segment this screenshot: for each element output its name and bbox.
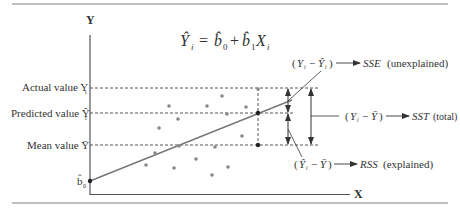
svg-text:i: i bbox=[191, 42, 194, 52]
mean-point bbox=[256, 143, 260, 147]
actual-value-label: Actual value Y bbox=[22, 81, 88, 93]
svg-text:SST: SST bbox=[412, 110, 430, 122]
svg-text:i: i bbox=[357, 117, 359, 123]
svg-text:(: ( bbox=[345, 110, 349, 123]
y-axis-label: Y bbox=[86, 13, 95, 27]
sse-leader bbox=[288, 71, 321, 101]
intercept-point bbox=[88, 179, 92, 183]
svg-text:+: + bbox=[230, 32, 239, 49]
svg-text:(: ( bbox=[294, 158, 298, 171]
svg-text:b̂: b̂ bbox=[214, 31, 222, 49]
svg-text:): ) bbox=[328, 158, 332, 171]
svg-text:X: X bbox=[255, 32, 267, 49]
predicted-point bbox=[256, 111, 260, 115]
svg-text:i: i bbox=[325, 64, 327, 70]
svg-text:=: = bbox=[199, 32, 208, 49]
rss-leader bbox=[288, 129, 302, 157]
x-axis-label: X bbox=[354, 187, 363, 201]
svg-text:Ȳ: Ȳ bbox=[320, 158, 328, 170]
sse-annotation: ( Y i − Ŷ i ) SSE (unexplained) bbox=[292, 57, 448, 70]
svg-text:Ȳ: Ȳ bbox=[371, 110, 379, 122]
svg-text:(unexplained): (unexplained) bbox=[387, 57, 448, 70]
regression-equation: Ŷ i = b̂ 0 + b̂ 1 X i bbox=[180, 31, 270, 52]
svg-text:(total): (total) bbox=[433, 111, 457, 123]
regression-decomposition-diagram: Y X Ŷ i = b̂ 0 + b̂ 1 X i Actual value Y… bbox=[0, 0, 460, 209]
svg-text:Ŷ: Ŷ bbox=[180, 31, 191, 49]
intercept-sub: 0 bbox=[83, 183, 86, 189]
svg-text:): ) bbox=[379, 110, 383, 123]
svg-text:): ) bbox=[329, 57, 333, 70]
regression-line bbox=[90, 100, 292, 181]
predicted-value-label: Predicted value Ŷ bbox=[11, 107, 90, 119]
svg-text:SSE: SSE bbox=[363, 57, 381, 69]
svg-text:i: i bbox=[304, 64, 306, 70]
svg-text:i: i bbox=[267, 42, 270, 52]
svg-text:0: 0 bbox=[223, 42, 228, 52]
scatter-points bbox=[144, 87, 260, 177]
svg-text:RSS: RSS bbox=[359, 158, 378, 170]
rss-annotation: ( Ŷ i − Ȳ ) RSS (explained) bbox=[294, 158, 433, 171]
svg-text:(explained): (explained) bbox=[383, 158, 433, 171]
svg-text:(: ( bbox=[292, 57, 296, 70]
svg-text:−: − bbox=[362, 110, 368, 122]
mean-value-label: Mean value Ȳ bbox=[27, 139, 89, 151]
svg-text:i: i bbox=[306, 165, 308, 171]
svg-text:b̂: b̂ bbox=[242, 31, 250, 49]
sst-annotation: ( Y i − Ȳ ) SST (total) bbox=[345, 110, 457, 123]
svg-text:1: 1 bbox=[251, 42, 256, 52]
svg-text:−: − bbox=[311, 158, 317, 170]
svg-text:−: − bbox=[309, 57, 315, 69]
